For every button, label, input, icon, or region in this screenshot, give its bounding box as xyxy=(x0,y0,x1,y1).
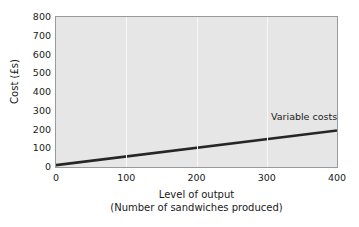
series-label-variable-costs: Variable costs xyxy=(271,111,337,123)
chart-figure: Cost (£s) 0100200300400500600700800 0100… xyxy=(0,0,359,227)
y-axis-tick-label: 700 xyxy=(5,31,51,41)
y-axis-tick-label: 800 xyxy=(5,12,51,22)
x-axis-tick-label: 0 xyxy=(36,172,76,183)
x-axis-tick-label: 300 xyxy=(247,172,287,183)
x-axis-subtitle: (Number of sandwiches produced) xyxy=(55,201,338,214)
x-axis-tick-label: 100 xyxy=(106,172,146,183)
y-axis-tick-label: 300 xyxy=(5,106,51,116)
gridline-vertical xyxy=(126,17,127,167)
x-axis-tick-labels: 0100200300400 xyxy=(0,172,359,186)
plot-area xyxy=(55,16,338,168)
y-axis-tick-label: 0 xyxy=(5,162,51,172)
y-axis-tick-label: 600 xyxy=(5,50,51,60)
gridline-vertical xyxy=(267,17,268,167)
x-axis-title-block: Level of output (Number of sandwiches pr… xyxy=(55,188,338,214)
x-axis-tick-label: 400 xyxy=(317,172,357,183)
y-axis-tick-label: 100 xyxy=(5,143,51,153)
y-axis-tick-label: 500 xyxy=(5,68,51,78)
x-axis-tick-label: 200 xyxy=(177,172,217,183)
y-axis-tick-label: 200 xyxy=(5,125,51,135)
gridline-vertical xyxy=(197,17,198,167)
y-axis-tick-label: 400 xyxy=(5,87,51,97)
x-axis-title: Level of output xyxy=(55,188,338,201)
y-axis-tick-labels: 0100200300400500600700800 xyxy=(0,0,51,227)
